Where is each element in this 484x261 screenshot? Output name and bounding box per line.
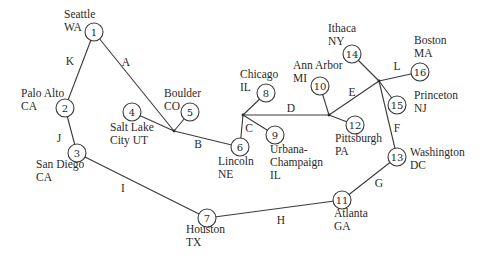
city-label-state: DC xyxy=(410,159,426,171)
junction-point xyxy=(378,80,381,83)
city-label-state: NE xyxy=(218,168,233,180)
edge-label: G xyxy=(375,177,383,189)
junction-point xyxy=(242,114,245,117)
city-label-name: Ann Arbor xyxy=(293,59,343,71)
node-number: 5 xyxy=(187,107,193,118)
edge-label: H xyxy=(277,214,285,226)
city-label-name: Urbana- xyxy=(270,143,308,155)
city-label-state: NY xyxy=(328,35,345,47)
city-label-state: PA xyxy=(335,145,349,157)
edge-segment xyxy=(77,153,207,218)
node-number: 16 xyxy=(414,67,427,78)
city-label-name: Lincoln xyxy=(218,155,254,167)
city-label-state: WA xyxy=(64,21,83,33)
city-label-name: Pittsburgh xyxy=(335,132,382,145)
node-number: 10 xyxy=(314,81,327,92)
node-number: 2 xyxy=(62,103,68,114)
node-4: 4 xyxy=(123,103,141,121)
node-2: 2 xyxy=(56,99,74,117)
edge-label: J xyxy=(57,132,62,144)
node-14: 14 xyxy=(343,45,361,63)
edge-label: L xyxy=(393,60,400,72)
junction-point xyxy=(328,114,331,117)
city-label-name: Chicago xyxy=(240,68,279,81)
node-number: 12 xyxy=(349,120,362,131)
node-number: 11 xyxy=(336,195,349,206)
node-8: 8 xyxy=(257,84,275,102)
city-label-state: IL xyxy=(240,81,251,93)
edge-label: I xyxy=(121,182,125,194)
edge-segment xyxy=(207,200,342,218)
city-label-name: Salt Lake xyxy=(110,121,154,133)
city-label-state: CA xyxy=(36,171,53,183)
edge-segment xyxy=(342,157,397,200)
node-6: 6 xyxy=(231,138,249,156)
edge-label: B xyxy=(194,138,202,150)
city-label-name: Atlanta xyxy=(334,207,368,219)
edge-segment xyxy=(174,131,240,147)
network-diagram: ABCDEFGHIJKL 12345678910111213141516 Sea… xyxy=(0,0,484,261)
edge-label: F xyxy=(394,122,400,134)
city-label-name: Boston xyxy=(414,34,447,46)
node-number: 13 xyxy=(391,152,404,163)
city-label-name: Princeton xyxy=(414,89,458,101)
city-label-name: Ithaca xyxy=(328,22,356,34)
node-5: 5 xyxy=(181,103,199,121)
city-label-state: Champaign xyxy=(270,156,323,169)
city-label-name: Seattle xyxy=(64,8,95,20)
city-label-state: City UT xyxy=(110,134,148,147)
edge-label: A xyxy=(122,56,131,68)
edge-label: C xyxy=(245,122,253,134)
node-1: 1 xyxy=(85,23,103,41)
node-10: 10 xyxy=(311,77,329,95)
city-label-state: MA xyxy=(414,47,433,59)
node-number: 4 xyxy=(129,107,135,118)
edge-label: K xyxy=(66,55,75,67)
junction-point xyxy=(173,130,176,133)
city-label-state: TX xyxy=(186,236,202,248)
city-label-state2: IL xyxy=(270,169,281,181)
city-label-state: GA xyxy=(334,220,351,232)
city-label-state: CO xyxy=(164,100,180,112)
node-number: 9 xyxy=(272,130,278,141)
node-number: 8 xyxy=(263,88,269,99)
city-label-name: Palo Alto xyxy=(21,87,64,99)
city-label-name: San Diego xyxy=(36,158,84,171)
node-number: 1 xyxy=(91,27,97,38)
edge-segment xyxy=(65,32,94,108)
city-label-state: CA xyxy=(21,100,38,112)
city-label-state: MI xyxy=(293,72,307,84)
city-label-name: Washington xyxy=(410,146,465,159)
node-number: 14 xyxy=(346,49,359,60)
node-15: 15 xyxy=(388,96,406,114)
node-number: 15 xyxy=(391,100,404,111)
node-number: 6 xyxy=(237,142,243,153)
edge-label: D xyxy=(287,102,295,114)
city-label-state: NJ xyxy=(414,102,427,114)
city-label-name: Boulder xyxy=(164,87,201,99)
node-9: 9 xyxy=(266,126,284,144)
city-label-name: Houston xyxy=(186,223,225,235)
node-16: 16 xyxy=(411,63,429,81)
edge-label: E xyxy=(348,86,355,98)
node-13: 13 xyxy=(388,148,406,166)
